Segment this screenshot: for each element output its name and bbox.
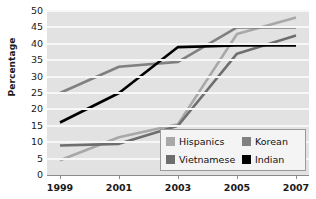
legend-item-hispanics: Hispanics: [166, 136, 242, 147]
y-tick-label: 50: [3, 5, 43, 16]
y-tick-label: 40: [3, 38, 43, 49]
gridline: [47, 108, 309, 110]
legend-item-korean: Korean: [242, 136, 312, 147]
gridline: [47, 10, 309, 12]
y-tick-label: 0: [3, 169, 43, 180]
gridline: [47, 59, 309, 61]
y-tick-label: 30: [3, 71, 43, 82]
legend-label-indian: Indian: [255, 154, 284, 165]
gridline: [47, 76, 309, 78]
y-tick-label: 5: [3, 153, 43, 164]
legend-label-hispanics: Hispanics: [179, 136, 224, 147]
y-tick-label: 45: [3, 21, 43, 32]
legend-swatch-vietnamese: [166, 155, 175, 164]
x-tick-label: 2001: [94, 182, 144, 193]
legend-swatch-hispanics: [166, 137, 175, 146]
x-tick-label: 2003: [153, 182, 203, 193]
legend-label-vietnamese: Vietnamese: [179, 154, 235, 165]
x-tick-label: 2007: [271, 182, 316, 193]
y-tick-label: 20: [3, 103, 43, 114]
x-tick-label: 1999: [35, 182, 85, 193]
gridline: [47, 92, 309, 94]
line-chart: Percentage 05101520253035404550 Hispanic…: [0, 0, 316, 199]
x-tick-label: 2005: [212, 182, 262, 193]
y-tick-label: 35: [3, 54, 43, 65]
gridline: [47, 125, 309, 127]
x-tick-mark: [296, 175, 297, 179]
x-tick-mark: [237, 175, 238, 179]
y-tick-label: 15: [3, 120, 43, 131]
x-tick-mark: [178, 175, 179, 179]
legend-item-vietnamese: Vietnamese: [166, 154, 242, 165]
y-tick-label: 10: [3, 136, 43, 147]
legend-label-korean: Korean: [255, 136, 288, 147]
x-tick-mark: [60, 175, 61, 179]
gridline: [47, 43, 309, 45]
legend-item-indian: Indian: [242, 154, 312, 165]
chart-legend: Hispanics Korean Vietnamese Indian: [160, 129, 306, 171]
x-tick-mark: [119, 175, 120, 179]
legend-swatch-korean: [242, 137, 251, 146]
legend-swatch-indian: [242, 155, 251, 164]
y-axis-tick-labels: 05101520253035404550: [0, 0, 43, 199]
series-line-indian: [60, 45, 296, 122]
y-tick-label: 25: [3, 87, 43, 98]
gridline: [47, 26, 309, 28]
